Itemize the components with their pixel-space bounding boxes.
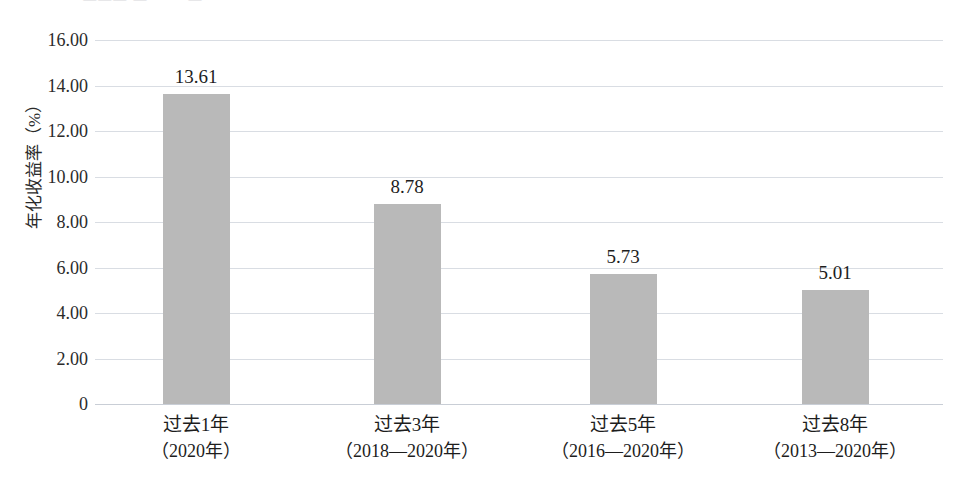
category-label: 过去5年 (551, 412, 695, 438)
category-sublabel: （2018—2020年） (335, 438, 479, 464)
plot-area: 13.618.785.735.01 (95, 40, 943, 404)
y-axis-tick-label: 4.00 (26, 304, 88, 322)
gridline (95, 86, 943, 87)
category-sublabel: （2013—2020年） (763, 438, 907, 464)
bar-value-label: 8.78 (390, 177, 423, 196)
bar-value-label: 5.01 (818, 263, 851, 282)
y-axis-tick-label: 2.00 (26, 350, 88, 368)
y-axis-tick-label: 10.00 (26, 168, 88, 186)
x-axis-category-3: 过去5年（2016—2020年） (551, 412, 695, 464)
bar-2[interactable] (374, 204, 441, 404)
x-axis-category-labels: 过去1年（2020年）过去3年（2018—2020年）过去5年（2016—202… (95, 412, 943, 478)
y-axis-tick-label: 6.00 (26, 259, 88, 277)
gridline (95, 40, 943, 41)
y-axis-tick-labels: 02.004.006.008.0010.0012.0014.0016.00 (24, 40, 88, 404)
bar-1[interactable] (163, 94, 230, 404)
bar-chart-figure: · · ——— — · · · — 年化收益率（%） 02.004.006.00… (0, 0, 957, 482)
y-axis-tick-label: 8.00 (26, 213, 88, 231)
y-axis-tick-label: 14.00 (26, 77, 88, 95)
bar-value-label: 13.61 (175, 67, 218, 86)
x-axis-category-2: 过去3年（2018—2020年） (335, 412, 479, 464)
category-sublabel: （2020年） (151, 438, 241, 464)
category-label: 过去8年 (763, 412, 907, 438)
cropped-header-sliver: · · ——— — · · · — (60, 0, 480, 5)
x-axis-category-1: 过去1年（2020年） (151, 412, 241, 464)
x-axis-category-4: 过去8年（2013—2020年） (763, 412, 907, 464)
gridline (95, 404, 943, 405)
bar-4[interactable] (802, 290, 869, 404)
category-label: 过去3年 (335, 412, 479, 438)
y-axis-tick-label: 0 (26, 395, 88, 413)
bar-value-label: 5.73 (606, 247, 639, 266)
category-label: 过去1年 (151, 412, 241, 438)
category-sublabel: （2016—2020年） (551, 438, 695, 464)
y-axis-tick-label: 16.00 (26, 31, 88, 49)
bar-3[interactable] (590, 274, 657, 404)
y-axis-tick-label: 12.00 (26, 122, 88, 140)
